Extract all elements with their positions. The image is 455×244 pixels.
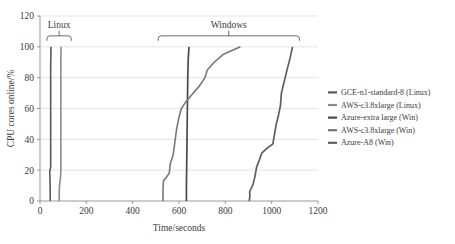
y-tick-label: 120	[20, 11, 35, 21]
group-bracket	[158, 36, 299, 41]
y-tick-label: 0	[29, 196, 34, 206]
x-axis-title: Time/seconds	[153, 223, 206, 233]
x-tick-label: 200	[79, 206, 94, 216]
x-tick-label: 0	[38, 206, 43, 216]
legend-item-label: AWS-c3.8xlarge (Win)	[341, 126, 415, 135]
legend-item-label: GCE-n1-standard-8 (Linux)	[341, 88, 431, 97]
series-line	[50, 47, 51, 201]
y-tick-label: 100	[20, 42, 35, 52]
group-brackets: LinuxWindows	[47, 20, 300, 41]
legend: GCE-n1-standard-8 (Linux)AWS-c3.8xlarge …	[328, 88, 431, 147]
y-tick-labels-group: 020406080100120	[20, 11, 35, 206]
y-tick-label: 60	[25, 104, 35, 114]
x-tick-label: 400	[126, 206, 141, 216]
legend-item-label: Azure-extra large (Win)	[341, 113, 418, 122]
axes-group	[37, 16, 318, 204]
x-tick-label: 1000	[262, 206, 281, 216]
series-line	[186, 47, 189, 201]
group-label-linux: Linux	[48, 20, 71, 30]
group-label-windows: Windows	[211, 20, 247, 30]
x-tick-labels-group: 020040060080010001200	[38, 206, 328, 216]
legend-item-label: AWS-c3.8xlarge (Linux)	[341, 101, 421, 110]
series-line	[249, 47, 292, 201]
y-axis-title: CPU cores online/%	[6, 70, 16, 148]
legend-item-label: Azure-A8 (Win)	[341, 138, 394, 147]
cpu-cores-online-line-chart: 020406080100120 020040060080010001200 Li…	[0, 0, 455, 244]
y-tick-label: 20	[25, 166, 35, 176]
series-line	[59, 47, 61, 201]
series-line	[163, 47, 240, 201]
chart-page: 020406080100120 020040060080010001200 Li…	[0, 0, 455, 244]
x-tick-label: 600	[172, 206, 187, 216]
group-bracket	[47, 36, 71, 41]
x-tick-label: 1200	[309, 206, 328, 216]
y-tick-label: 40	[25, 135, 35, 145]
y-tick-label: 80	[25, 73, 35, 83]
gridlines-group	[40, 16, 318, 170]
x-tick-label: 800	[218, 206, 233, 216]
series-lines-group	[50, 47, 293, 201]
